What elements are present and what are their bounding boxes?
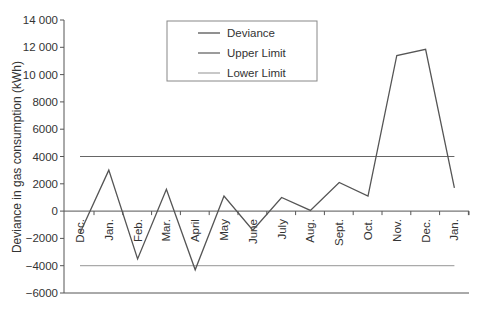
x-tick-label: Nov.	[391, 219, 403, 242]
y-tick-label: 2000	[32, 178, 58, 190]
x-tick-label: June	[247, 219, 259, 244]
y-tick-label: −2000	[26, 232, 58, 244]
y-tick-label: 10 000	[23, 69, 58, 81]
x-tick-label: July	[276, 219, 288, 240]
legend-label: Upper Limit	[227, 47, 287, 59]
x-tick-label: May	[218, 219, 230, 241]
legend-label: Lower Limit	[227, 67, 287, 79]
deviance-line-chart: 14 00012 00010 00080006000400020000−2000…	[0, 0, 483, 311]
y-tick-label: −6000	[26, 287, 58, 299]
x-tick-label: Mar.	[160, 219, 172, 241]
y-tick-label: 8000	[32, 96, 58, 108]
x-tick-label: Jan.	[103, 219, 115, 241]
y-tick-label: 0	[52, 205, 58, 217]
y-axis-label: Deviance in gas consumption (kWh)	[10, 61, 24, 253]
x-axis: Dec.Jan.Feb.Mar.AprilMayJuneJulyAug.Sept…	[64, 211, 469, 246]
x-tick-label: Oct.	[362, 219, 374, 240]
y-tick-label: 14 000	[23, 14, 58, 26]
x-tick-label: Jan.	[448, 219, 460, 241]
x-tick-label: Feb.	[132, 219, 144, 242]
x-tick-label: Sept.	[333, 219, 345, 246]
y-tick-label: 4000	[32, 151, 58, 163]
y-tick-label: 6000	[32, 123, 58, 135]
x-tick-label: Aug.	[304, 219, 316, 243]
legend: DevianceUpper LimitLower Limit	[167, 21, 317, 81]
y-tick-label: −4000	[26, 260, 58, 272]
y-tick-label: 12 000	[23, 41, 58, 53]
legend-label: Deviance	[227, 27, 275, 39]
x-tick-label: Dec.	[420, 219, 432, 243]
x-tick-label: April	[189, 219, 201, 242]
